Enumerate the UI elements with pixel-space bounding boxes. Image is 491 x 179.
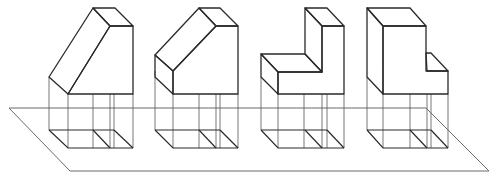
shape-2-slope bbox=[155, 8, 216, 71]
shape-3-footprint bbox=[261, 130, 344, 148]
shape-4 bbox=[367, 8, 448, 148]
shape-2-side bbox=[155, 55, 173, 94]
projection-lines bbox=[155, 71, 238, 148]
shape-1-front bbox=[68, 26, 133, 94]
shape-3-top bbox=[305, 8, 344, 26]
shape-2 bbox=[155, 8, 238, 148]
shape-4-step-top bbox=[426, 53, 448, 71]
shape-1 bbox=[49, 8, 133, 148]
shape-2-top bbox=[199, 8, 238, 26]
shape-1-slope bbox=[49, 8, 110, 94]
projection-diagram bbox=[0, 0, 491, 179]
shape-4-side bbox=[367, 8, 383, 94]
shape-2-front bbox=[173, 26, 238, 94]
projection-plane bbox=[9, 108, 489, 171]
shape-3-step-side bbox=[261, 54, 278, 94]
shape-2-footprint bbox=[155, 130, 238, 148]
projection-lines bbox=[367, 77, 448, 148]
shape-3 bbox=[261, 8, 344, 148]
shape-4-footprint bbox=[367, 130, 448, 148]
projection-lines bbox=[261, 77, 344, 148]
shape-1-footprint bbox=[49, 130, 133, 148]
shape-1-top bbox=[93, 8, 133, 26]
